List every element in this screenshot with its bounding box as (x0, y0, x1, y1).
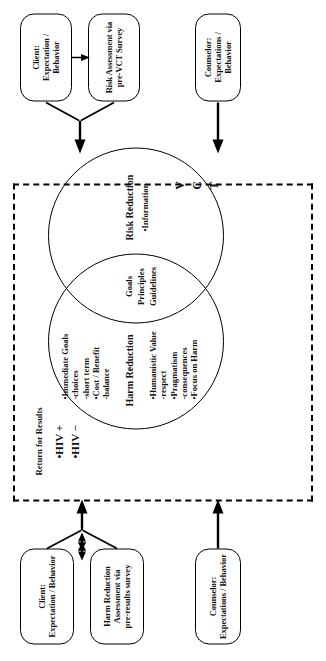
arrow-bottom-client-to-risk (72, 54, 90, 61)
label-harm-reduction-items-left: •Humanistic Value -respect •Pragmatism -… (148, 307, 200, 399)
label-return-for-results: Return for Results (34, 365, 44, 475)
label-hiv-positive: •HIV + (53, 388, 66, 458)
label-risk-reduction-title: Risk Reduction (124, 163, 136, 251)
label-harm-reduction-items-right: •Immediate Goals -choices -short term •C… (60, 307, 112, 399)
arrow-bottom-counselor-into-session (213, 102, 224, 153)
label-vct-c: C (190, 177, 204, 193)
diagram-canvas: Client: Expectation / Behavior Harm Redu… (0, 0, 326, 661)
label-vct-t: T (207, 177, 221, 193)
label-hiv-negative: •HIV − (69, 388, 82, 458)
label-overlap-goals: Goals (124, 263, 134, 309)
label-overlap-guidelines: Guidelines (148, 256, 158, 316)
label-risk-reduction-items: •Information (140, 163, 150, 251)
label-harm-reduction-title: Harm Reduction (124, 327, 136, 413)
arrow-bottom-merge-into-session (46, 102, 114, 153)
label-vct-v: V (173, 177, 187, 193)
arrow-top-counselor-into-session (213, 499, 224, 548)
double-arrow-client-harmreduction (78, 532, 86, 560)
label-overlap-principles: Principles (136, 256, 146, 316)
